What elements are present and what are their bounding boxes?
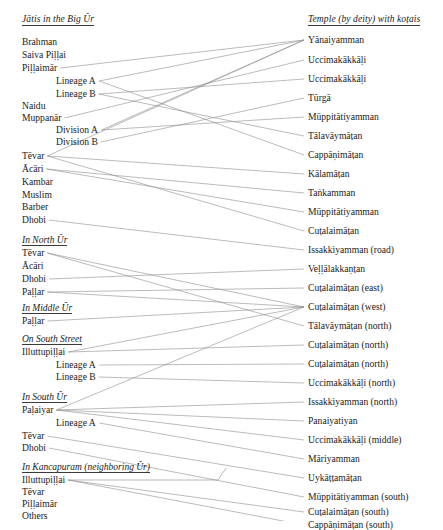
link-L19-R15 — [47, 292, 304, 307]
temple-node-R26[interactable]: Cuṭalaimāṭan (south) — [308, 507, 389, 517]
temple-node-R25[interactable]: Mūppitātiyamman (south) — [308, 492, 408, 502]
link-L3-R1 — [60, 40, 304, 68]
group-heading-south-ur: In South Ŭr — [22, 392, 67, 403]
jati-node-L18[interactable]: Dhobi — [22, 274, 46, 284]
temple-node-R2[interactable]: Uccimakākkāḷi — [308, 55, 366, 65]
jati-node-L23[interactable]: Lineage B — [56, 372, 96, 382]
jati-node-L13[interactable]: Muslim — [22, 190, 52, 200]
jati-node-L7[interactable]: Muppanār — [22, 113, 61, 123]
link-L4-R1 — [99, 40, 304, 81]
link-L10-R8 — [47, 156, 304, 174]
link-L25-R23 — [99, 423, 304, 459]
jati-node-L24[interactable]: Paḷaiyar — [22, 405, 53, 415]
link-L15-R12 — [49, 220, 304, 250]
group-heading-middle-ur: In Middle Ŭr — [22, 303, 72, 314]
group-heading-north-ur: In North Ŭr — [22, 235, 67, 246]
jati-node-L1[interactable]: Brahman — [22, 37, 57, 47]
jati-node-L8[interactable]: Division A — [56, 125, 98, 135]
group-heading-kancapuram: In Kancapuram (neighboring Ŭr) — [22, 462, 150, 473]
link-L21-R15 — [68, 307, 304, 352]
jati-node-L20[interactable]: Paḷḷar — [22, 316, 44, 326]
temple-node-R24[interactable]: Uykāṭṭamāṭan — [308, 473, 362, 483]
temple-node-R8[interactable]: Kālamāṭan — [308, 169, 350, 179]
temple-node-R9[interactable]: Taṅkamman — [308, 188, 355, 198]
link-L20-R15 — [47, 307, 304, 321]
jati-node-L3[interactable]: Piḷḷaimār — [22, 63, 57, 73]
jati-node-L30[interactable]: Piḷḷaimār — [22, 499, 57, 509]
jati-node-L21[interactable]: Illuttupiḷḷai — [22, 347, 65, 357]
jati-node-L14[interactable]: Barber — [22, 202, 48, 212]
temple-node-R12[interactable]: Issakkiyamman (road) — [308, 245, 394, 255]
jati-node-L10[interactable]: Tēvar — [22, 151, 44, 161]
link-L11-R10 — [46, 169, 304, 212]
link-L24-R20 — [56, 402, 304, 410]
temple-node-R21[interactable]: Panaiyatiyan — [308, 416, 358, 426]
temple-node-R17[interactable]: Cuṭalaimāṭan (north) — [308, 340, 388, 350]
jati-node-L11[interactable]: Ācāri — [22, 164, 43, 174]
temple-node-R3[interactable]: Uccimakākkāḷi — [308, 74, 366, 84]
temple-node-R6[interactable]: Tālavāymāṭan — [308, 131, 362, 141]
left-column-header: Jātis in the Big Ŭr — [22, 14, 94, 26]
temple-node-R4[interactable]: Tūrgā — [308, 93, 331, 103]
jati-node-L9[interactable]: Division B — [56, 137, 98, 147]
link-L28-R27 — [68, 480, 304, 521]
jati-node-L6[interactable]: Naidu — [22, 101, 45, 111]
temple-node-R1[interactable]: Yānaiyamman — [308, 35, 364, 45]
jati-node-L15[interactable]: Dhobi — [22, 215, 46, 225]
temple-node-R18[interactable]: Cuṭalaimāṭan (north) — [308, 359, 388, 369]
jati-node-L31[interactable]: Others — [22, 511, 48, 521]
link-L8-R5 — [101, 117, 304, 130]
jati-node-L16[interactable]: Tēvar — [22, 248, 44, 258]
jati-node-L22[interactable]: Lineage A — [56, 360, 96, 370]
temple-node-R15[interactable]: Cuṭalaimāṭan (west) — [308, 302, 386, 312]
link-L10-R11 — [47, 156, 304, 231]
temple-node-R7[interactable]: Cappāṇimāṭan — [308, 150, 363, 160]
temple-node-R20[interactable]: Issakkiyamman (north) — [308, 397, 397, 407]
link-L16-R16 — [47, 253, 304, 326]
link-L18-R13 — [49, 269, 304, 279]
temple-node-R5[interactable]: Mūppitātiyamman — [308, 112, 379, 122]
jati-node-L2[interactable]: Saiva Piḷḷai — [22, 50, 66, 60]
jati-node-L25[interactable]: Lineage A — [56, 418, 96, 428]
link-L16-R15 — [47, 253, 304, 307]
jati-node-L28[interactable]: Illuttupiḷḷai — [22, 475, 65, 485]
jati-node-L5[interactable]: Lineage B — [56, 89, 96, 99]
temple-node-R27[interactable]: Cappāṇimāṭan (south) — [308, 520, 393, 530]
jati-node-L12[interactable]: Kambar — [22, 177, 53, 187]
temple-node-R10[interactable]: Mūppitātiyamman — [308, 207, 379, 217]
link-L11-R9 — [46, 169, 304, 193]
jati-node-L19[interactable]: Paḷḷar — [22, 287, 44, 297]
temple-node-R13[interactable]: Veḷḷālakkaṇṭan — [308, 264, 365, 274]
link-L5-R6 — [99, 94, 304, 136]
link-L4-R7 — [99, 81, 304, 155]
jati-node-L27[interactable]: Dhobi — [22, 443, 46, 453]
temple-node-R16[interactable]: Tālavāymāṭan (north) — [308, 321, 391, 331]
jati-node-L17[interactable]: Ācāri — [22, 261, 43, 271]
link-L21-R17 — [68, 345, 304, 352]
link-L28-R26 — [68, 480, 304, 512]
temple-node-R11[interactable]: Cuṭalaimāṭan — [308, 226, 359, 236]
link-L23-R19 — [99, 377, 304, 383]
link-L7-R2 — [64, 60, 304, 118]
temple-node-R19[interactable]: Uccimakākkāḷi (north) — [308, 378, 395, 388]
right-column-header: Temple (by deity) with koṭais — [308, 14, 420, 26]
jati-node-L4[interactable]: Lineage A — [56, 76, 96, 86]
temple-node-R22[interactable]: Uccimakākkāḷi (middle) — [308, 435, 402, 445]
link-L5-R3 — [99, 79, 304, 94]
temple-node-R14[interactable]: Cuṭalaimāṭan (east) — [308, 283, 383, 293]
group-heading-south-street: On South Street — [22, 334, 82, 345]
jati-node-L26[interactable]: Tēvar — [22, 431, 44, 441]
link-L8-R1 — [101, 40, 304, 130]
link-L22-R18 — [99, 364, 304, 365]
link-L19-R14 — [47, 288, 304, 292]
temple-node-R23[interactable]: Māriyamman — [308, 454, 360, 464]
link-L9-R4 — [101, 98, 304, 142]
jati-node-L29[interactable]: Tēvar — [22, 487, 44, 497]
